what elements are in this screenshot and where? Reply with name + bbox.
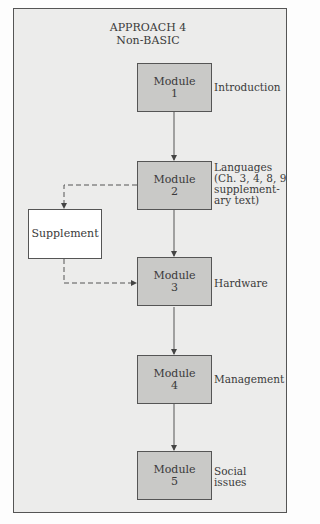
module-1-box: Module 1 bbox=[137, 63, 212, 112]
label-line: Introduction bbox=[214, 82, 281, 93]
module-4-name: Module bbox=[153, 368, 195, 380]
module-1-label: Introduction bbox=[214, 82, 281, 93]
module-1-number: 1 bbox=[171, 88, 178, 100]
dashed-arrow-supplement-module3 bbox=[64, 259, 136, 283]
module-1-name: Module bbox=[153, 76, 195, 88]
module-5-box: Module 5 bbox=[137, 451, 212, 500]
label-line: ary text) bbox=[214, 195, 286, 206]
label-line: Hardware bbox=[214, 278, 268, 289]
label-line: issues bbox=[214, 477, 247, 488]
module-3-name: Module bbox=[153, 270, 195, 282]
module-3-number: 3 bbox=[171, 282, 178, 294]
module-2-box: Module 2 bbox=[137, 161, 212, 210]
module-4-number: 4 bbox=[171, 380, 178, 392]
module-5-number: 5 bbox=[171, 476, 178, 488]
module-2-label: Languages (Ch. 3, 4, 8, 9 supplement- ar… bbox=[214, 162, 286, 206]
module-4-box: Module 4 bbox=[137, 355, 212, 404]
supplement-label: Supplement bbox=[31, 228, 98, 240]
module-3-box: Module 3 bbox=[137, 257, 212, 306]
module-2-number: 2 bbox=[171, 186, 178, 198]
module-5-label: Social issues bbox=[214, 466, 247, 488]
supplement-box: Supplement bbox=[28, 209, 102, 259]
module-3-label: Hardware bbox=[214, 278, 268, 289]
label-line: Management bbox=[214, 374, 284, 385]
module-2-name: Module bbox=[153, 174, 195, 186]
module-5-name: Module bbox=[153, 464, 195, 476]
module-4-label: Management bbox=[214, 374, 284, 385]
dashed-arrow-module2-supplement bbox=[64, 185, 137, 208]
